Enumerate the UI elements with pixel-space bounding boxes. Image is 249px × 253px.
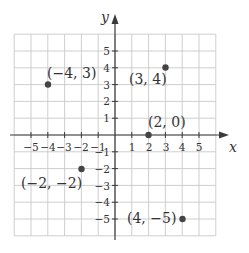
point-label: (4, −5): [127, 210, 176, 226]
y-tick-label: 4: [103, 62, 110, 74]
y-tick-label: −4: [95, 196, 111, 208]
point-4-neg5: [179, 216, 185, 222]
y-axis-label: y: [100, 9, 110, 25]
x-tick-label: −2: [73, 141, 88, 153]
point-label: (−2, −2): [21, 175, 82, 191]
x-tick-label: −3: [56, 141, 71, 153]
coordinate-plane: x y −5 −4 −3 −2 −1 1 2 3 4 5 5 4 3 2 1 −…: [0, 0, 249, 253]
x-tick-label: 1: [129, 141, 136, 153]
point-label: (2, 0): [148, 114, 186, 130]
y-tick-label: −3: [95, 180, 110, 192]
point-2-0: [145, 132, 151, 138]
x-axis-arrow-icon: [219, 132, 229, 139]
y-tick-label: 1: [103, 112, 110, 124]
y-tick-label: −5: [95, 213, 110, 225]
y-tick-label: −2: [95, 163, 110, 175]
x-tick-label: 3: [163, 141, 170, 153]
y-tick-label: −1: [95, 146, 110, 158]
point-neg2-neg2: [78, 166, 84, 172]
y-tick-label: 2: [103, 95, 110, 107]
x-tick-label: −5: [23, 141, 38, 153]
point-neg4-3: [45, 81, 51, 87]
axes: x y: [10, 9, 237, 240]
x-tick-labels: −5 −4 −3 −2 −1 1 2 3 4 5: [23, 141, 202, 153]
x-tick-label: 2: [146, 141, 153, 153]
point-label: (−4, 3): [47, 65, 96, 81]
x-tick-label: 5: [196, 141, 203, 153]
x-tick-label: 4: [179, 141, 186, 153]
y-axis-arrow-icon: [112, 14, 119, 24]
y-tick-label: 3: [103, 79, 110, 91]
x-axis-label: x: [229, 139, 237, 155]
x-tick-label: −4: [40, 141, 56, 153]
y-tick-label: 5: [103, 45, 110, 57]
point-label: (3, 4): [129, 71, 167, 87]
point-3-4: [162, 64, 168, 70]
